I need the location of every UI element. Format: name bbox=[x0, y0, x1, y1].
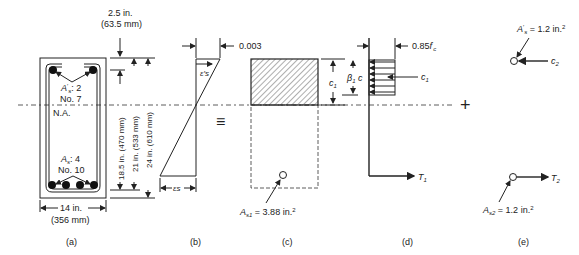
depth-18-5-dim: 18.5 in. (470 mm) bbox=[117, 117, 126, 180]
stress-label: 0.85f′c bbox=[412, 41, 436, 52]
svg-text:A′s: 2: A′s: 2 bbox=[60, 83, 81, 94]
plus-symbol: + bbox=[460, 95, 471, 115]
as1-bar bbox=[280, 172, 287, 179]
top-bar-right bbox=[89, 66, 97, 74]
svg-text:As1 = 3.88 in.2: As1 = 3.88 in.2 bbox=[239, 207, 296, 218]
depth-24-dim: 24 in. (610 mm) bbox=[145, 112, 154, 168]
depth-21-dim: 21 in. (533 mm) bbox=[131, 116, 140, 172]
width-mm-dim: (356 mm) bbox=[51, 215, 90, 225]
compression-block bbox=[251, 59, 318, 105]
top-bar-size: No. 7 bbox=[60, 94, 82, 104]
c2-force-label: c2 bbox=[551, 56, 560, 67]
eps-prime-label: ε′s bbox=[200, 69, 209, 78]
top-bar-left bbox=[49, 66, 57, 74]
t2-force-label: T2 bbox=[551, 173, 561, 184]
asp-bar bbox=[511, 58, 518, 65]
equivalence-symbol: ≡ bbox=[216, 113, 225, 130]
asp-label: A′s = 1.2 in.2 bbox=[516, 24, 566, 35]
caption-d: (d) bbox=[402, 237, 413, 247]
t1-force-label: T1 bbox=[418, 172, 427, 183]
section-e-steel-couple: A′s = 1.2 in.2 c2 T2 As2 = 1.2 in.2 (e) bbox=[482, 24, 566, 247]
doubly-reinforced-beam-diagram: A′s: 2 No. 7 N.A. As: 4 No. 10 14 in. (3… bbox=[0, 0, 579, 255]
cover-mm-dim: (63.5 mm) bbox=[101, 19, 142, 29]
as2-label: As2 = 1.2 in.2 bbox=[482, 205, 534, 216]
section-a-cross-section: A′s: 2 No. 7 N.A. As: 4 No. 10 14 in. (3… bbox=[40, 8, 155, 247]
caption-a: (a) bbox=[66, 237, 77, 247]
beta1c-label: β1 c bbox=[346, 73, 363, 84]
eps-label: εs bbox=[173, 184, 181, 193]
caption-e: (e) bbox=[518, 237, 529, 247]
caption-c: (c) bbox=[282, 237, 293, 247]
c1-force-label: c1 bbox=[421, 72, 429, 83]
section-c-concrete-block: As1 = 3.88 in.2 (c) bbox=[239, 59, 318, 247]
width-dim: 14 in. bbox=[60, 203, 82, 213]
section-d-forces: c1 β1 c 0.85f′c c1 T1 (d) bbox=[321, 38, 436, 247]
caption-b: (b) bbox=[190, 237, 201, 247]
beam-outline bbox=[40, 58, 106, 198]
bottom-bar-size: No. 10 bbox=[58, 165, 85, 175]
cover-dim: 2.5 in. bbox=[108, 8, 133, 18]
neutral-axis-label: N.A. bbox=[53, 108, 71, 118]
svg-text:As: 4: As: 4 bbox=[60, 154, 80, 165]
strain-0003: 0.003 bbox=[239, 41, 262, 51]
as2-bar bbox=[510, 174, 517, 181]
c1-depth-label: c1 bbox=[329, 78, 337, 89]
